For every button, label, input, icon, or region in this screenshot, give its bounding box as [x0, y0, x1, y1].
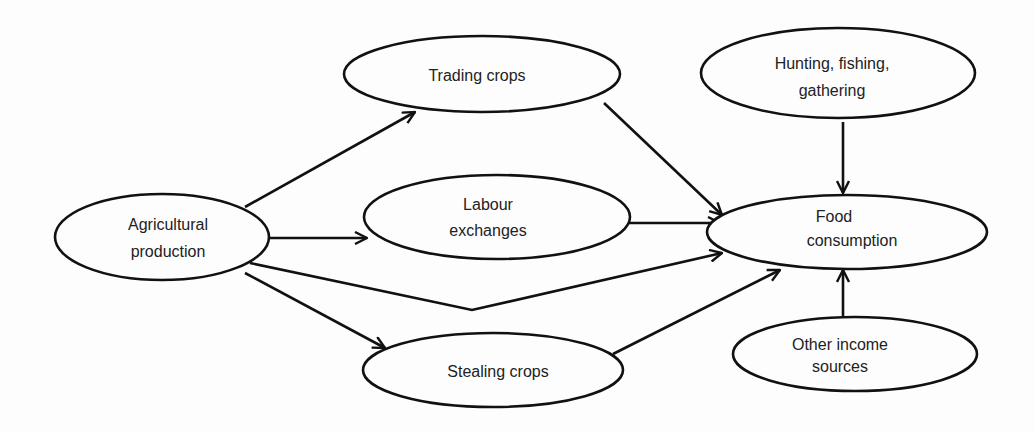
node-label-line: Food: [816, 208, 852, 225]
node-stealing-crops: Stealing crops: [363, 333, 623, 407]
node-label-line: Agricultural: [128, 216, 208, 233]
node-label-line: Labour: [463, 196, 513, 213]
node-label-line: consumption: [807, 232, 898, 249]
node-label-line: production: [131, 243, 206, 260]
node-labour-exchanges: Labour exchanges: [364, 175, 630, 259]
node-label-line: exchanges: [449, 222, 526, 239]
edge-agri-to-stealing: [245, 273, 385, 348]
node-label-line: gathering: [799, 82, 866, 99]
node-label-line: Hunting, fishing,: [775, 55, 890, 72]
node-label-line: Other income: [792, 336, 888, 353]
node-shape: [701, 28, 975, 118]
node-hunting-fishing-gathering: Hunting, fishing, gathering: [701, 28, 975, 118]
node-trading-crops: Trading crops: [344, 36, 620, 112]
node-label-line: sources: [812, 358, 868, 375]
node-shape: [364, 175, 630, 259]
node-agricultural-production: Agricultural production: [55, 194, 269, 280]
node-shape: [733, 317, 977, 391]
edge-trading-to-food: [604, 103, 722, 215]
flow-diagram: Agricultural production Trading crops La…: [0, 0, 1035, 432]
edge-agri-to-food-direct: [250, 253, 722, 310]
node-label-line: Stealing crops: [447, 363, 548, 380]
node-label-line: Trading crops: [428, 67, 525, 84]
node-other-income-sources: Other income sources: [733, 317, 977, 391]
node-food-consumption: Food consumption: [707, 195, 987, 269]
node-shape: [55, 194, 269, 280]
